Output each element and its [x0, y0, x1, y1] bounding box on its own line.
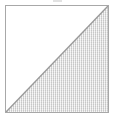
diagram-canvas — [0, 0, 115, 114]
square-figure-outline — [5, 5, 109, 113]
cropped-edge-mark — [53, 0, 62, 2]
diagonal-hypotenuse-line — [6, 6, 108, 112]
